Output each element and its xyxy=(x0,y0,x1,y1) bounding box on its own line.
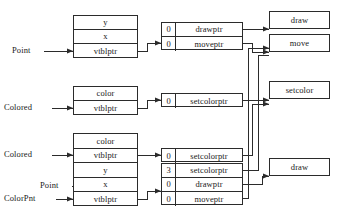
colorpnt-point-vtable-entry-drawptr: 0 drawptr xyxy=(162,178,242,192)
function-draw-bottom: draw xyxy=(269,158,330,176)
pointer-label-colorpnt: ColorPnt xyxy=(4,194,36,203)
colored-vtable: 0 setcolorptr xyxy=(161,93,243,107)
colored-vtable-entry-setcolorptr: 0 setcolorptr xyxy=(162,94,242,108)
pointer-label-point-top: Point xyxy=(12,46,30,55)
function-draw-top: draw xyxy=(269,11,330,29)
colorpnt-point-vtable-entry-moveptr-offset: 0 xyxy=(162,192,176,206)
point-vtable-entry-drawptr: 0 drawptr xyxy=(162,23,242,37)
colored-vtable-entry-setcolorptr-slot: setcolorptr xyxy=(176,94,242,108)
colorpnt-object-field-y: y xyxy=(74,163,137,178)
wire-3setcolorptr-tail xyxy=(258,55,269,59)
point-object: y x vtblptr xyxy=(73,15,138,58)
wire-pointobj-to-vtable xyxy=(138,43,161,51)
colored-vtable-entry-setcolorptr-offset: 0 xyxy=(162,94,176,108)
colored-object-field-color: color xyxy=(74,87,137,101)
colorpnt-colored-vtable: 0 setcolorptr xyxy=(161,148,243,162)
colorpnt-point-vtable: 3 setcolorptr 0 drawptr 0 moveptr xyxy=(161,163,243,205)
pointer-label-point-bottom: Point xyxy=(40,181,58,190)
vtable-diagram: Point Colored Colored Point ColorPnt y x… xyxy=(0,0,348,217)
colorpnt-colored-vtable-entry-setcolorptr-offset: 0 xyxy=(162,149,176,163)
colorpnt-object-field-x: x xyxy=(74,178,137,192)
point-vtable-entry-drawptr-slot: drawptr xyxy=(176,23,242,36)
wire-colorpnt-drawptr-to-draw xyxy=(243,176,269,184)
point-object-field-vtblptr: vtblptr xyxy=(74,44,137,59)
function-move: move xyxy=(269,34,330,52)
colorpnt-colored-vtable-entry-setcolorptr: 0 setcolorptr xyxy=(162,149,242,163)
point-vtable-entry-moveptr-slot: moveptr xyxy=(176,37,242,51)
colorpnt-point-vtable-entry-drawptr-offset: 0 xyxy=(162,178,176,191)
wire-colorpnt-setcolorptr-to-setcolor xyxy=(243,104,269,155)
point-object-field-x: x xyxy=(74,30,137,44)
colorpnt-object-field-vtblptr-point: vtblptr xyxy=(74,192,137,207)
colored-object-field-vtblptr: vtblptr xyxy=(74,101,137,116)
wire-coloredobj-to-vtable xyxy=(138,100,161,108)
point-vtable-entry-moveptr-offset: 0 xyxy=(162,37,176,51)
pointer-label-colored-mid: Colored xyxy=(4,103,32,112)
point-vtable-entry-moveptr: 0 moveptr xyxy=(162,37,242,51)
point-object-field-y: y xyxy=(74,16,137,30)
colorpnt-point-vtable-entry-moveptr-slot: moveptr xyxy=(176,192,242,206)
pointer-label-colored-bottom: Colored xyxy=(4,150,32,159)
function-setcolor: setcolor xyxy=(269,81,330,99)
colorpnt-object-field-color: color xyxy=(74,134,137,149)
colorpnt-object-field-vtblptr-colored: vtblptr xyxy=(74,149,137,163)
wire-colorpntobj-to-pointvtable xyxy=(138,191,161,199)
wire-3setcolorptr-riser xyxy=(243,59,258,170)
colorpnt-object: color vtblptr y x vtblptr xyxy=(73,133,138,206)
colorpnt-point-vtable-entry-drawptr-slot: drawptr xyxy=(176,178,242,191)
colorpnt-point-vtable-entry-setcolorptr-offset: 3 xyxy=(162,164,176,177)
colorpnt-point-vtable-entry-setcolorptr: 3 setcolorptr xyxy=(162,164,242,178)
colorpnt-point-vtable-entry-moveptr: 0 moveptr xyxy=(162,192,242,206)
point-vtable-entry-drawptr-offset: 0 xyxy=(162,23,176,36)
colored-object: color vtblptr xyxy=(73,86,138,115)
colorpnt-colored-vtable-entry-setcolorptr-slot: setcolorptr xyxy=(176,149,242,163)
colorpnt-point-vtable-entry-setcolorptr-slot: setcolorptr xyxy=(176,164,242,177)
point-vtable: 0 drawptr 0 moveptr xyxy=(161,22,243,50)
